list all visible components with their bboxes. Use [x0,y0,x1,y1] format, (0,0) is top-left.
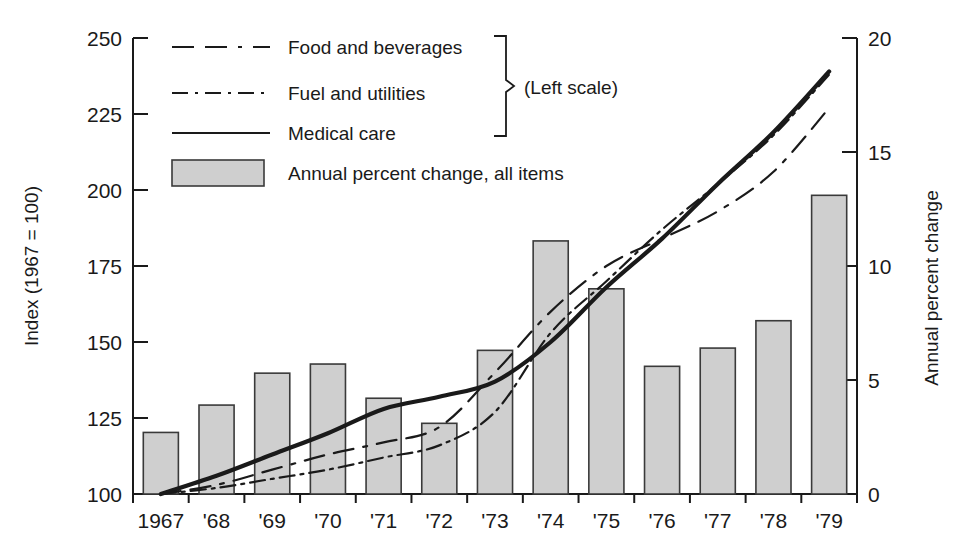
tick-label-left-225: 225 [87,103,122,126]
bar-series-annual-percent-change [143,195,846,494]
legend-label-annual-percent-change: Annual percent change, all items [288,163,564,184]
legend-swatch-annual-percent-change [172,160,264,186]
legend-label-medical-care: Medical care [288,123,396,144]
chart-figure: 250 225 200 175 150 125 100 Index (1967 … [0,0,965,545]
x-axis-tick-labels: 1967'68'69'70'71'72'73'74'75'76'77'78'79 [137,509,842,532]
x-axis-tick-label-72: '72 [426,509,453,532]
tick-label-right-0: 0 [868,483,880,506]
tick-label-left-125: 125 [87,407,122,430]
tick-label-right-20: 20 [868,27,891,50]
x-axis-tick-label-77: '77 [704,509,731,532]
left-axis-tick-labels: 250 225 200 175 150 125 100 [87,27,122,506]
x-axis-tick-label-1967: 1967 [137,509,184,532]
x-axis-tick-label-68: '68 [203,509,230,532]
x-axis-tick-label-76: '76 [648,509,675,532]
tick-label-left-200: 200 [87,179,122,202]
tick-label-left-100: 100 [87,483,122,506]
legend-label-food-and-beverages: Food and beverages [288,37,462,58]
tick-label-left-250: 250 [87,27,122,50]
legend-label-fuel-and-utilities: Fuel and utilities [288,83,425,104]
bar-1967 [143,432,178,494]
x-axis-tick-label-71: '71 [370,509,397,532]
bar-77 [700,348,735,494]
bar-79 [812,195,847,494]
right-axis-tick-labels: 20 15 10 5 0 [868,27,891,506]
x-axis-tick-label-79: '79 [815,509,842,532]
left-axis-ticks [133,114,148,418]
bar-78 [756,321,791,494]
bar-72 [422,423,457,494]
x-axis-tick-label-75: '75 [593,509,620,532]
legend-brace [494,36,514,136]
x-axis-tick-label-78: '78 [760,509,787,532]
chart-legend: Food and beverages Fuel and utilities Me… [172,36,618,186]
tick-label-right-10: 10 [868,255,891,278]
x-axis-tick-label-70: '70 [314,509,341,532]
tick-label-right-15: 15 [868,141,891,164]
tick-label-right-5: 5 [868,369,880,392]
tick-label-left-175: 175 [87,255,122,278]
x-axis-tick-label-69: '69 [259,509,286,532]
bar-75 [589,289,624,494]
legend-scale-note: (Left scale) [524,77,618,98]
tick-label-left-150: 150 [87,331,122,354]
left-axis-title: Index (1967 = 100) [21,186,42,346]
right-axis-title: Annual percent change [921,190,942,385]
x-axis-tick-label-73: '73 [481,509,508,532]
bar-76 [645,366,680,494]
x-axis-ticks [133,494,857,503]
bar-74 [533,241,568,494]
x-axis-tick-label-74: '74 [537,509,565,532]
cpi-index-chart: 250 225 200 175 150 125 100 Index (1967 … [0,0,965,545]
